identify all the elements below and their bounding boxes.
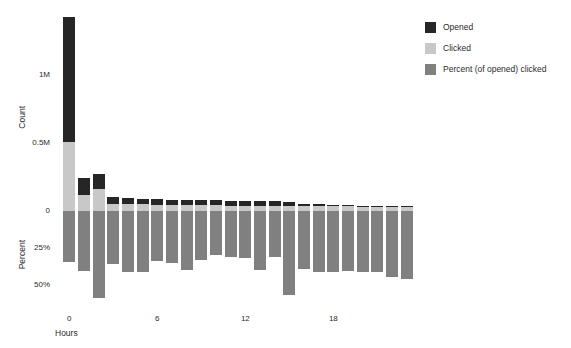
legend-swatch-clicked (425, 43, 436, 54)
bar-segment-opened (401, 206, 413, 207)
bar-segment-percent (195, 211, 207, 260)
bar-segment-percent (78, 211, 90, 271)
bar-segment-opened (239, 201, 251, 206)
bar-group[interactable] (327, 15, 339, 305)
bar-segment-percent (137, 211, 149, 272)
bar-segment-percent (181, 211, 193, 270)
bar-group[interactable] (386, 15, 398, 305)
x-tick-label: 6 (142, 314, 172, 323)
bar-segment-opened (151, 199, 163, 204)
bar-segment-percent (357, 211, 369, 272)
bar-segment-opened (386, 206, 398, 207)
bar-group[interactable] (195, 15, 207, 305)
legend-item[interactable]: Opened (425, 19, 546, 36)
count-tick-label: 0 (10, 206, 50, 215)
bar-group[interactable] (210, 15, 222, 305)
bar-group[interactable] (283, 15, 295, 305)
x-tick-label: 0 (54, 314, 84, 323)
bar-segment-opened (63, 17, 75, 141)
bar-segment-clicked (78, 195, 90, 211)
bar-segment-percent (386, 211, 398, 277)
bar-group[interactable] (78, 15, 90, 305)
bar-segment-opened (122, 198, 134, 204)
legend-swatch-opened (425, 22, 436, 33)
bar-group[interactable] (151, 15, 163, 305)
bar-segment-percent (151, 211, 163, 261)
bar-segment-clicked (93, 189, 105, 211)
bar-group[interactable] (181, 15, 193, 305)
bar-segment-clicked (137, 204, 149, 211)
bar-segment-opened (181, 200, 193, 205)
bar-segment-clicked (63, 142, 75, 211)
count-tick-label: 0.5M (10, 138, 50, 147)
bar-segment-opened (195, 200, 207, 205)
bar-segment-percent (327, 211, 339, 272)
bar-segment-percent (239, 211, 251, 258)
chart-legend: OpenedClickedPercent (of opened) clicked (425, 19, 546, 82)
bar-segment-opened (254, 201, 266, 205)
legend-item-label: Clicked (443, 43, 471, 54)
bar-group[interactable] (269, 15, 281, 305)
bar-group[interactable] (371, 15, 383, 305)
x-axis-title: Hours (55, 328, 78, 338)
legend-item-label: Percent (of opened) clicked (443, 64, 546, 75)
bar-segment-percent (107, 211, 119, 264)
bar-group[interactable] (225, 15, 237, 305)
bar-segment-percent (342, 211, 354, 271)
bar-segment-opened (93, 174, 105, 189)
bar-segment-opened (298, 204, 310, 206)
bar-group[interactable] (357, 15, 369, 305)
bar-group[interactable] (401, 15, 413, 305)
bar-segment-opened (342, 205, 354, 206)
bar-segment-clicked (122, 204, 134, 211)
bar-segment-percent (401, 211, 413, 279)
bar-segment-opened (107, 197, 119, 204)
bar-group[interactable] (239, 15, 251, 305)
bar-segment-opened (166, 200, 178, 205)
count-axis-title: Count (17, 106, 27, 129)
bar-segment-opened (137, 199, 149, 205)
percent-tick-label: 25% (10, 243, 50, 252)
bar-segment-opened (283, 202, 295, 206)
bar-segment-percent (166, 211, 178, 263)
bar-group[interactable] (107, 15, 119, 305)
bar-segment-opened (78, 178, 90, 195)
bar-segment-opened (371, 206, 383, 207)
bar-group[interactable] (93, 15, 105, 305)
bar-segment-opened (357, 206, 369, 207)
legend-item-label: Opened (443, 22, 473, 33)
x-tick-label: 12 (230, 314, 260, 323)
bar-group[interactable] (254, 15, 266, 305)
bar-segment-percent (225, 211, 237, 257)
bar-segment-percent (93, 211, 105, 298)
bar-group[interactable] (342, 15, 354, 305)
bar-segment-percent (313, 211, 325, 272)
percent-tick-label: 50% (10, 280, 50, 289)
bar-group[interactable] (313, 15, 325, 305)
bar-segment-percent (254, 211, 266, 270)
bar-segment-percent (210, 211, 222, 255)
legend-swatch-percent (425, 64, 436, 75)
chart-canvas: Count Percent 00.5M1M 25%50% 061218 Hour… (0, 0, 571, 348)
legend-item[interactable]: Clicked (425, 40, 546, 57)
bar-group[interactable] (122, 15, 134, 305)
bar-group[interactable] (63, 15, 75, 305)
bar-group[interactable] (166, 15, 178, 305)
bar-segment-percent (63, 211, 75, 262)
bar-group[interactable] (137, 15, 149, 305)
bar-group[interactable] (298, 15, 310, 305)
bar-segment-opened (313, 204, 325, 206)
bar-segment-opened (225, 201, 237, 206)
bar-segment-percent (122, 211, 134, 272)
bar-segment-percent (283, 211, 295, 295)
bar-segment-clicked (107, 204, 119, 211)
bar-segment-percent (371, 211, 383, 272)
bar-segment-opened (269, 201, 281, 205)
plot-area (62, 15, 414, 305)
x-tick-label: 18 (318, 314, 348, 323)
bar-segment-percent (269, 211, 281, 257)
bar-segment-opened (327, 205, 339, 206)
bar-segment-percent (298, 211, 310, 269)
legend-item[interactable]: Percent (of opened) clicked (425, 61, 546, 78)
count-tick-label: 1M (10, 70, 50, 79)
